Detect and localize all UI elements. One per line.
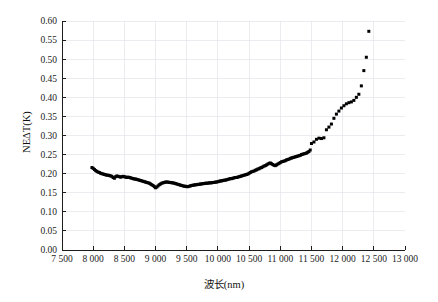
x-tick-label: 10 500: [236, 254, 262, 264]
x-axis-ticks: 7 5008 0008 5009 0009 50010 00010 50011 …: [51, 246, 418, 264]
y-tick-label: 0.15: [40, 188, 57, 198]
y-tick-label: 0.35: [40, 112, 57, 122]
x-tick-label: 11 500: [299, 254, 325, 264]
y-tick-label: 0.25: [40, 150, 57, 160]
y-tick-label: 0.55: [40, 35, 57, 45]
x-tick-label: 12 000: [330, 254, 356, 264]
y-tick-label: 0.05: [40, 226, 57, 236]
y-tick-label: 0.40: [40, 93, 57, 103]
data-series-points: [90, 30, 370, 189]
x-axis-title: 波长(nm): [204, 278, 245, 291]
y-tick-label: 0.10: [40, 207, 57, 217]
x-tick-label: 9 500: [176, 254, 198, 264]
chart-figure: 7 5008 0008 5009 0009 50010 00010 50011 …: [0, 0, 438, 302]
y-tick-label: 0.20: [40, 169, 57, 179]
x-tick-label: 13 000: [392, 254, 418, 264]
x-tick-label: 8 500: [114, 254, 136, 264]
x-tick-label: 8 000: [82, 254, 104, 264]
x-tick-label: 12 500: [361, 254, 387, 264]
y-tick-label: 0.30: [40, 131, 57, 141]
x-tick-label: 7 500: [51, 254, 73, 264]
y-tick-label: 0.45: [40, 74, 57, 84]
y-tick-label: 0.00: [40, 245, 57, 255]
y-tick-label: 0.60: [40, 16, 57, 26]
chart-svg: 7 5008 0008 5009 0009 50010 00010 50011 …: [0, 0, 438, 302]
x-tick-label: 11 000: [267, 254, 293, 264]
x-tick-label: 9 000: [145, 254, 167, 264]
y-axis-title: NEΔT(K): [21, 111, 33, 153]
x-tick-label: 10 000: [205, 254, 231, 264]
y-tick-label: 0.50: [40, 55, 57, 65]
gridlines: [62, 21, 405, 250]
